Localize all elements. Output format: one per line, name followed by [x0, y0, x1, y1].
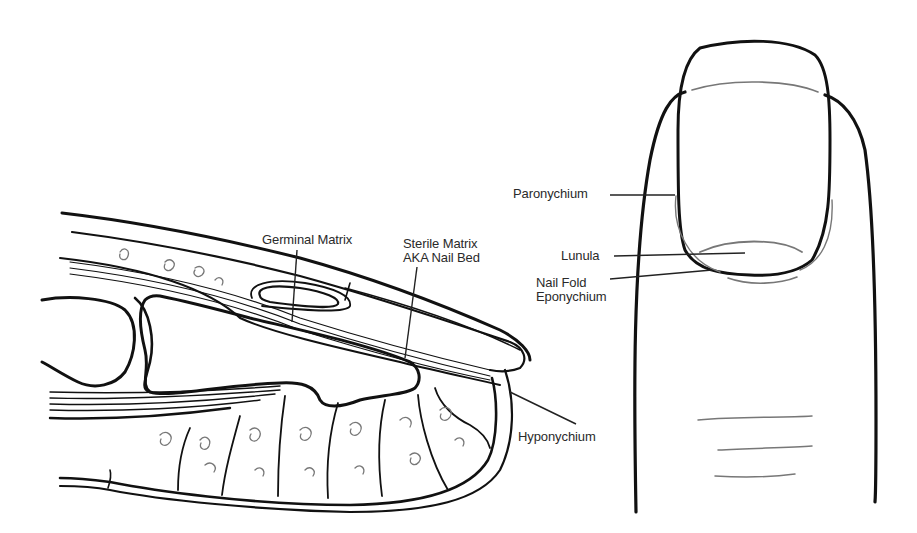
- nail-anatomy-diagram: Germinal Matrix Sterile Matrix AKA Nail …: [0, 0, 917, 533]
- label-sterile-matrix-line2: AKA Nail Bed: [403, 251, 480, 265]
- label-sterile-matrix-line1: Sterile Matrix: [403, 237, 480, 251]
- label-lunula: Lunula: [561, 249, 599, 263]
- sagittal-section-illustration: [0, 0, 917, 533]
- label-nail-fold-line1: Nail Fold: [536, 276, 607, 290]
- label-germinal-matrix: Germinal Matrix: [262, 233, 352, 247]
- label-nail-fold-line2: Eponychium: [536, 290, 607, 304]
- germinal-matrix-leader: [292, 250, 297, 322]
- nail-fold-leader: [610, 270, 712, 279]
- label-paronychium: Paronychium: [513, 187, 588, 201]
- label-sterile-matrix: Sterile Matrix AKA Nail Bed: [403, 237, 480, 265]
- lunula-leader: [614, 253, 745, 256]
- label-nail-fold: Nail Fold Eponychium: [536, 276, 607, 304]
- sterile-matrix-leader: [405, 267, 417, 358]
- label-hyponychium: Hyponychium: [518, 430, 596, 444]
- hyponychium-leader: [510, 392, 576, 424]
